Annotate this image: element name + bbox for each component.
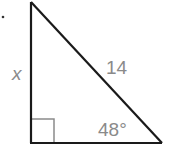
side-label-x: x [11, 63, 23, 84]
hypotenuse [31, 2, 162, 143]
bullet-dot [2, 16, 5, 19]
hypotenuse-label: 14 [106, 57, 128, 78]
angle-label: 48° [98, 119, 127, 140]
triangle-diagram: x 14 48° [0, 0, 173, 156]
right-angle-marker [31, 119, 54, 143]
